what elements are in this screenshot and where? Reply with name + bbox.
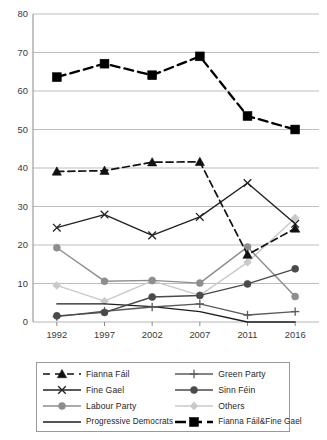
marker-circle xyxy=(292,265,299,272)
marker-circle xyxy=(59,403,66,410)
series-line xyxy=(57,304,295,317)
legend-item-labour-party[interactable]: Labour Party xyxy=(41,400,173,412)
y-tick-label-40: 40 xyxy=(18,162,28,173)
marker-square xyxy=(195,52,204,61)
legend-label: Fine Gael xyxy=(86,386,124,395)
legend-sample-circle xyxy=(173,384,215,396)
legend-sample-circle xyxy=(41,400,83,412)
legend-label: Green Party xyxy=(218,370,265,379)
marker-circle xyxy=(149,293,156,300)
series-line xyxy=(57,162,295,255)
marker-plus xyxy=(196,300,204,308)
legend-sample-plus xyxy=(173,368,215,380)
legend-label: Progressive Democrats xyxy=(86,418,173,426)
x-tick-label-1992: 1992 xyxy=(46,329,67,340)
legend-label: Fianna Fáil&Fine Gael xyxy=(218,418,302,426)
marker-x xyxy=(53,224,61,232)
election-results-line-chart: 0102030405060708019921997200220072011201… xyxy=(0,0,327,440)
marker-x xyxy=(196,213,204,221)
series-labour-party xyxy=(53,243,298,300)
marker-circle xyxy=(244,280,251,287)
legend-item-progressive-democrats[interactable]: Progressive Democrats xyxy=(41,416,173,428)
marker-square xyxy=(243,112,252,121)
marker-square xyxy=(100,59,109,68)
marker-circle xyxy=(101,309,108,316)
series-line xyxy=(57,247,295,297)
marker-circle xyxy=(53,312,60,319)
marker-circle xyxy=(196,292,203,299)
marker-circle xyxy=(101,278,108,285)
x-tick-label-1997: 1997 xyxy=(94,329,115,340)
series-line xyxy=(57,183,295,235)
marker-circle xyxy=(292,293,299,300)
marker-x xyxy=(244,179,252,187)
x-tick-label-2011: 2011 xyxy=(237,329,257,340)
x-tick-label-2002: 2002 xyxy=(142,329,163,340)
marker-circle xyxy=(196,280,203,287)
legend-item-fianna-f-il[interactable]: Fianna Fáil xyxy=(41,368,173,380)
series-fianna-f-il-fine-gael xyxy=(52,52,299,134)
series-sinn-f-in xyxy=(53,265,298,319)
legend-item-sinn-f-in[interactable]: Sinn Féin xyxy=(173,384,302,396)
legend-sample-none xyxy=(41,416,83,428)
marker-x xyxy=(148,232,156,240)
series-fianna-f-il xyxy=(52,157,300,258)
marker-x xyxy=(101,211,109,219)
marker-triangle xyxy=(291,224,300,232)
legend-sample-diamond xyxy=(173,400,215,412)
legend-item-green-party[interactable]: Green Party xyxy=(173,368,302,380)
series-green-party xyxy=(53,300,300,321)
legend-label: Fianna Fáil xyxy=(86,370,130,379)
marker-circle xyxy=(149,277,156,284)
marker-diamond xyxy=(53,281,61,289)
x-tick-label-2016: 2016 xyxy=(285,329,306,340)
legend-label: Sinn Féin xyxy=(218,386,255,395)
series-fine-gael xyxy=(53,179,299,239)
chart-svg: 0102030405060708019921997200220072011201… xyxy=(0,0,327,355)
legend-item-others[interactable]: Others xyxy=(173,400,302,412)
legend-item-fianna-f-il-fine-gael[interactable]: Fianna Fáil&Fine Gael xyxy=(173,416,302,428)
marker-square xyxy=(148,71,157,80)
y-tick-label-30: 30 xyxy=(18,201,28,212)
marker-plus xyxy=(243,311,251,319)
legend-sample-square xyxy=(173,416,215,428)
legend-sample-x xyxy=(41,384,83,396)
legend-item-fine-gael[interactable]: Fine Gael xyxy=(41,384,173,396)
marker-plus xyxy=(148,303,156,311)
y-tick-label-50: 50 xyxy=(18,124,28,135)
legend-label: Others xyxy=(218,402,244,411)
legend-label: Labour Party xyxy=(86,402,136,411)
marker-triangle xyxy=(195,157,204,165)
marker-plus xyxy=(291,307,299,315)
marker-circle xyxy=(191,387,198,394)
marker-diamond xyxy=(190,402,198,410)
marker-square xyxy=(190,418,199,427)
y-tick-label-80: 80 xyxy=(18,8,28,19)
y-tick-label-10: 10 xyxy=(18,278,28,289)
marker-square xyxy=(52,73,61,82)
plot-area: 0102030405060708019921997200220072011201… xyxy=(0,0,327,355)
y-tick-label-60: 60 xyxy=(18,85,28,96)
marker-plus xyxy=(190,370,198,378)
y-tick-label-70: 70 xyxy=(18,47,28,58)
marker-circle xyxy=(53,244,60,251)
series-line xyxy=(57,56,295,129)
y-tick-label-0: 0 xyxy=(23,316,28,327)
x-tick-label-2007: 2007 xyxy=(189,329,210,340)
series-others xyxy=(53,214,299,305)
marker-square xyxy=(291,125,300,134)
y-tick-label-20: 20 xyxy=(18,239,28,250)
chart-legend: Fianna FáilGreen PartyFine GaelSinn Féin… xyxy=(36,362,290,432)
legend-sample-triangle xyxy=(41,368,83,380)
